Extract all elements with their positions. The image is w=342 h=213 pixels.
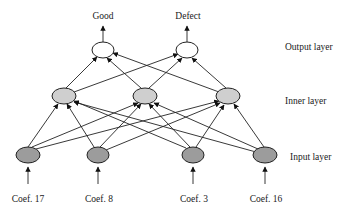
input-label-coef16: Coef. 16 xyxy=(250,194,283,204)
inner-to-output-edges xyxy=(66,53,226,92)
input-to-inner-edges xyxy=(28,101,264,152)
input-label-coef8: Coef. 8 xyxy=(85,194,113,204)
input-node-coef17 xyxy=(16,147,40,163)
layer-label-output: Output layer xyxy=(285,42,334,52)
output-label-defect: Defect xyxy=(175,11,201,21)
output-arrows xyxy=(103,26,187,42)
layer-label-inner: Inner layer xyxy=(285,96,327,106)
output-label-good: Good xyxy=(92,11,113,21)
output-node-defect xyxy=(176,42,198,58)
neural-network-diagram: Good Defect Output layer Inner layer Inp… xyxy=(0,0,342,213)
layer-label-input: Input layer xyxy=(290,152,332,162)
input-layer-nodes xyxy=(16,147,277,163)
input-label-coef3: Coef. 3 xyxy=(180,194,208,204)
inner-layer-nodes xyxy=(52,88,240,104)
inner-node-1 xyxy=(52,88,76,104)
inner-node-3 xyxy=(216,88,240,104)
input-node-coef3 xyxy=(182,147,204,163)
input-node-coef8 xyxy=(87,147,109,163)
output-layer-nodes xyxy=(92,42,198,58)
output-node-good xyxy=(92,42,114,58)
input-label-coef17: Coef. 17 xyxy=(12,194,45,204)
input-arrows xyxy=(28,167,265,184)
inner-node-2 xyxy=(133,88,157,104)
input-node-coef16 xyxy=(253,147,277,163)
